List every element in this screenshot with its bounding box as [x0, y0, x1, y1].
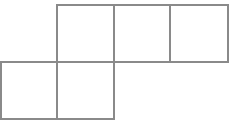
figure-canvas	[0, 0, 244, 129]
bottom-row-square-2	[57, 62, 114, 119]
top-row-square-1	[57, 5, 114, 62]
top-row-square-3	[170, 5, 228, 62]
polyomino-net-figure	[0, 0, 244, 129]
bottom-row-square-1	[1, 62, 57, 119]
top-row-square-2	[114, 5, 170, 62]
